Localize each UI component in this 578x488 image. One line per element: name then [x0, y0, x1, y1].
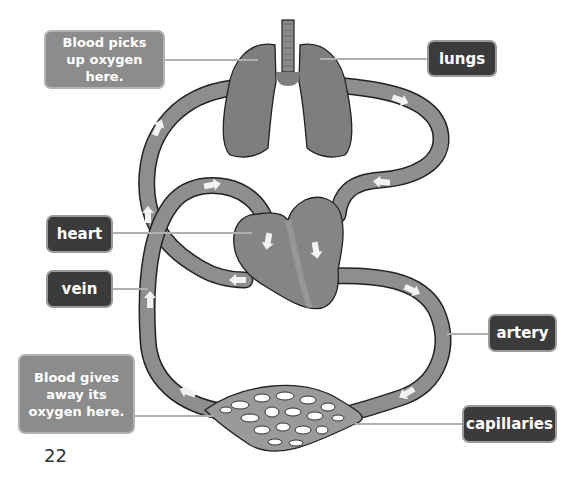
heart-organ — [234, 197, 343, 308]
label-capillaries: capillaries — [462, 405, 557, 443]
label-artery: artery — [488, 314, 557, 352]
trachea — [282, 20, 294, 72]
note-oxygen-release: Blood gives away its oxygen here. — [18, 354, 135, 434]
label-lungs: lungs — [427, 40, 497, 77]
label-heart: heart — [46, 215, 113, 253]
label-vein: vein — [46, 270, 113, 308]
page-number: 22 — [44, 445, 67, 466]
capillary-network — [205, 386, 362, 452]
note-oxygen-pickup: Blood picks up oxygen here. — [44, 30, 165, 89]
